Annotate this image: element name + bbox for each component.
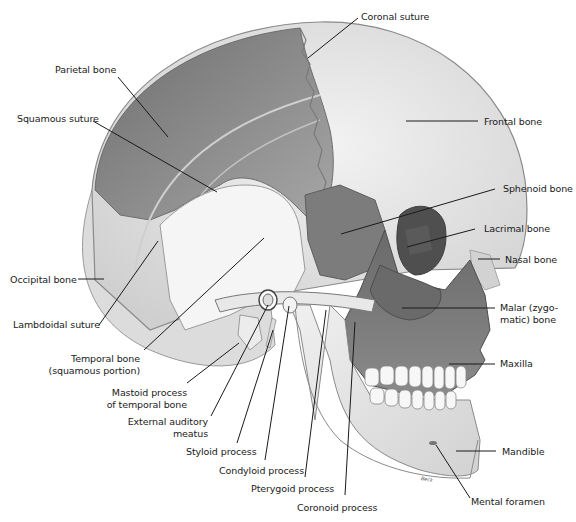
label-mastoid-line2: of temporal bone — [75, 399, 187, 411]
label-lambdoidal-suture: Lambdoidal suture — [13, 319, 100, 331]
label-coronoid-process: Coronoid process — [297, 502, 377, 514]
label-malar-line1: Malar (zygo- — [500, 302, 558, 314]
label-external-auditory-meatus: External auditory meatus — [100, 416, 208, 440]
label-lacrimal-bone: Lacrimal bone — [484, 223, 550, 235]
label-frontal-bone: Frontal bone — [484, 116, 542, 128]
label-malar-bone: Malar (zygo- matic) bone — [500, 302, 558, 326]
label-malar-line2: matic) bone — [500, 314, 558, 326]
label-temporal-bone: Temporal bone (squamous portion) — [45, 353, 140, 377]
label-mastoid-process: Mastoid process of temporal bone — [75, 387, 187, 411]
label-parietal-bone: Parietal bone — [55, 64, 116, 76]
label-mastoid-line1: Mastoid process — [75, 387, 187, 399]
label-temporal-line1: Temporal bone — [45, 353, 140, 365]
label-maxilla: Maxilla — [500, 358, 533, 370]
condyle — [283, 297, 297, 313]
label-mandible: Mandible — [502, 446, 544, 458]
label-temporal-line2: (squamous portion) — [45, 365, 140, 377]
label-nasal-bone: Nasal bone — [505, 254, 557, 266]
skull-illustration — [0, 0, 576, 522]
label-mental-foramen: Mental foramen — [471, 496, 545, 508]
label-squamous-suture: Squamous suture — [17, 113, 99, 125]
label-pterygoid-process: Pterygoid process — [251, 483, 334, 495]
label-condyloid-process: Condyloid process — [219, 465, 304, 477]
label-occipital-bone: Occipital bone — [10, 274, 77, 286]
label-eam-line2: meatus — [100, 428, 208, 440]
mental-foramen-mark — [429, 441, 437, 445]
label-coronal-suture: Coronal suture — [361, 11, 429, 23]
label-styloid-process: Styloid process — [186, 446, 257, 458]
label-eam-line1: External auditory — [100, 416, 208, 428]
label-sphenoid-bone: Sphenoid bone — [503, 183, 573, 195]
